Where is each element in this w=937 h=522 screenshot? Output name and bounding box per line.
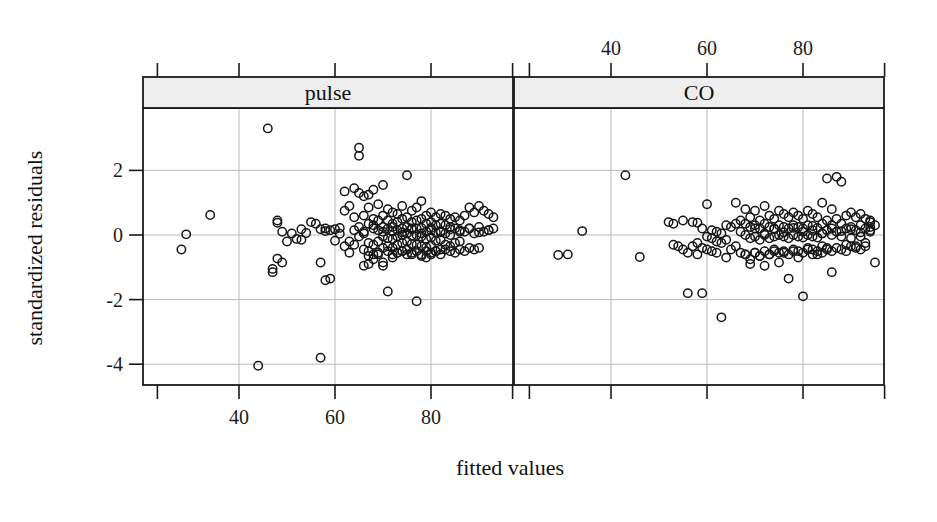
x-tick-label-bottom-80: 80 xyxy=(421,406,441,428)
x-tick-label-bottom-40: 40 xyxy=(229,406,249,428)
x-tick-label-top-80: 80 xyxy=(793,37,813,59)
strip-label-CO: CO xyxy=(684,80,715,105)
x-tick-label-top-60: 60 xyxy=(697,37,717,59)
strip-label-pulse: pulse xyxy=(305,80,351,105)
x-tick-label-top-40: 40 xyxy=(601,37,621,59)
y-tick-label-2: 2 xyxy=(113,159,123,181)
y-tick-label-0: 0 xyxy=(113,224,123,246)
y-axis-title: standardized residuals xyxy=(22,151,47,346)
y-tick-label--4: -4 xyxy=(106,353,123,375)
x-axis-title: fitted values xyxy=(456,455,564,480)
strip-headers-layer: pulseCO xyxy=(143,77,884,108)
x-tick-label-bottom-60: 60 xyxy=(325,406,345,428)
figure-root: pulseCO 20-2-4406080406080fitted valuess… xyxy=(0,0,937,522)
y-tick-label--2: -2 xyxy=(106,289,123,311)
scatter-plot-svg: pulseCO 20-2-4406080406080fitted valuess… xyxy=(0,0,937,522)
